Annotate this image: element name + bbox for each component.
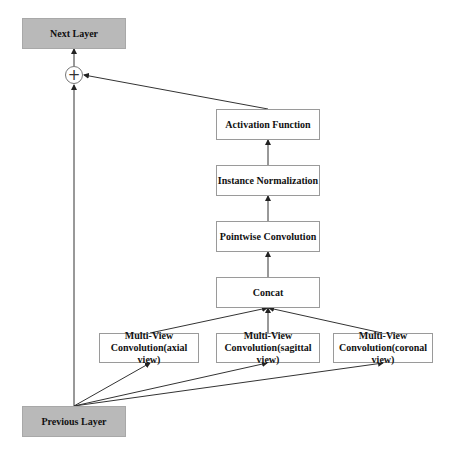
multiview-sagittal-line1: Multi-View xyxy=(244,330,293,342)
multiview-sagittal-line2: Convolution(sagittal view) xyxy=(217,342,319,366)
multiview-coronal-line2: Convolution(coronal view) xyxy=(334,342,432,366)
concat-label: Concat xyxy=(253,287,284,299)
activation-function-label: Activation Function xyxy=(225,119,310,131)
pointwise-convolution-label: Pointwise Convolution xyxy=(220,231,316,243)
previous-layer-node: Previous Layer xyxy=(22,406,126,437)
previous-layer-label: Previous Layer xyxy=(41,416,106,428)
activation-function-node: Activation Function xyxy=(216,109,320,140)
multiview-axial-line2: Convolution(axial view) xyxy=(100,342,198,366)
multiview-coronal-line1: Multi-View xyxy=(359,330,408,342)
multiview-axial-node: Multi-View Convolution(axial view) xyxy=(99,333,199,363)
concat-node: Concat xyxy=(216,277,320,308)
multiview-sagittal-node: Multi-View Convolution(sagittal view) xyxy=(216,333,320,363)
next-layer-label: Next Layer xyxy=(50,28,98,40)
instance-normalization-node: Instance Normalization xyxy=(216,165,320,196)
add-operator-icon: + xyxy=(65,66,83,84)
multiview-coronal-node: Multi-View Convolution(coronal view) xyxy=(333,333,433,363)
multiview-axial-line1: Multi-View xyxy=(125,330,174,342)
instance-normalization-label: Instance Normalization xyxy=(218,175,318,187)
next-layer-node: Next Layer xyxy=(22,18,126,49)
pointwise-convolution-node: Pointwise Convolution xyxy=(216,221,320,252)
